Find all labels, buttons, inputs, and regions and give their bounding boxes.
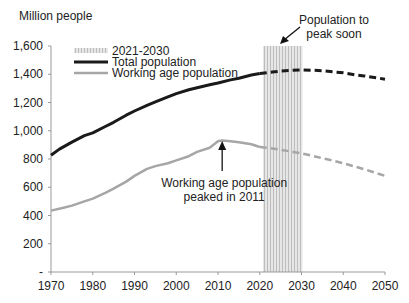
x-tick-label: 1970 [38,279,65,293]
legend-label: Working age population [112,66,238,80]
shaded-region-2021-2030 [263,46,303,272]
y-tick-label: 1,400 [13,67,43,81]
x-tick-label: 2040 [330,279,357,293]
y-tick-label: 1,000 [13,124,43,138]
y-tick-label: 400 [23,209,43,223]
x-tick-label: 1980 [79,279,106,293]
x-tick-label: 1990 [121,279,148,293]
population-line-chart: Million people -2004006008001,0001,2001,… [0,0,409,303]
y-tick-label: 600 [23,180,43,194]
shaded-region [263,46,303,272]
y-axis-label: Million people [19,9,93,23]
arrowhead-icon [218,141,226,150]
svg-text:Working age population: Working age population [161,176,287,190]
y-tick-label: - [39,265,43,279]
y-tick-label: 800 [23,152,43,166]
arrow-icon [284,27,300,40]
svg-text:peaked in 2011: peaked in 2011 [184,190,266,204]
x-tick-label: 2000 [163,279,190,293]
x-tick-label: 2020 [246,279,273,293]
svg-text:peak soon: peak soon [306,27,361,41]
y-tick-label: 1,200 [13,96,43,110]
svg-text:Population to: Population to [299,13,369,27]
legend: 2021-2030Total populationWorking age pop… [74,44,238,80]
x-tick-label: 2010 [205,279,232,293]
y-tick-label: 1,600 [13,39,43,53]
x-tick-label: 2030 [288,279,315,293]
x-tick-label: 2050 [372,279,399,293]
series-line-actual [51,74,260,156]
y-tick-label: 200 [23,237,43,251]
